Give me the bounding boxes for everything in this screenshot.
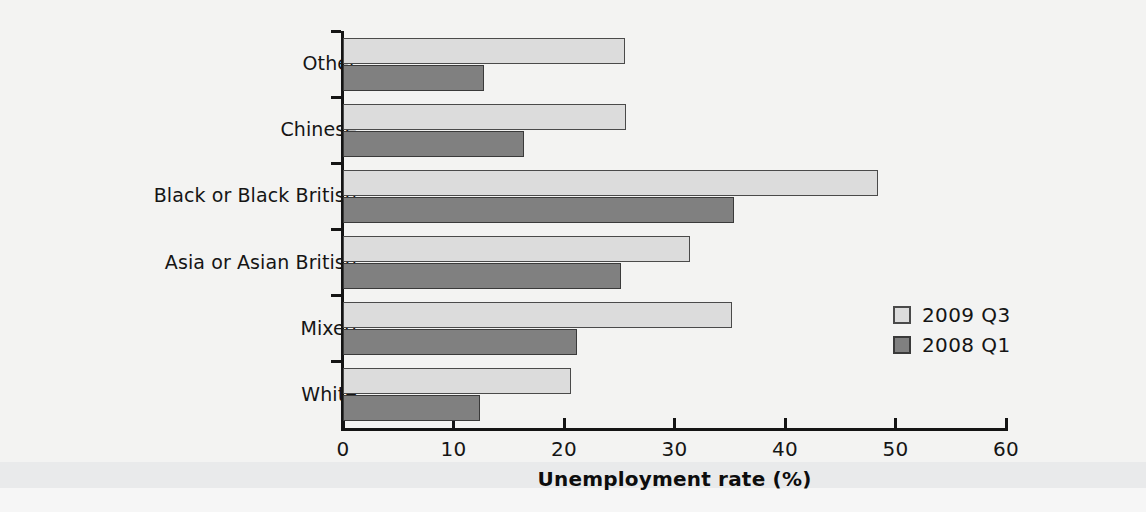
legend-item-2009q3: 2009 Q3 bbox=[893, 300, 1011, 330]
y-axis-tick bbox=[331, 228, 341, 231]
x-axis-title: Unemployment rate (%) bbox=[341, 467, 1008, 491]
bar-2008-q1 bbox=[343, 65, 484, 91]
x-axis-tick-label: 60 bbox=[976, 437, 1036, 461]
y-axis-tick bbox=[331, 294, 341, 297]
bar-2009-q3 bbox=[343, 302, 732, 328]
x-axis-tick-label: 30 bbox=[645, 437, 705, 461]
y-axis-top-cap bbox=[331, 30, 341, 33]
bar-2009-q3 bbox=[343, 170, 878, 196]
x-axis-tick bbox=[673, 418, 676, 428]
x-axis-line bbox=[341, 428, 1008, 431]
bar-2008-q1 bbox=[343, 263, 621, 289]
x-axis-tick-label: 40 bbox=[755, 437, 815, 461]
bar-2009-q3 bbox=[343, 368, 571, 394]
x-axis-tick-label: 0 bbox=[313, 437, 373, 461]
y-axis-category-label: Asia or Asian British bbox=[165, 251, 357, 273]
bar-chart-plot-area: 0102030405060WhiteMixedAsia or Asian Bri… bbox=[0, 0, 1146, 512]
bar-2008-q1 bbox=[343, 395, 480, 421]
legend-item-2008q1: 2008 Q1 bbox=[893, 330, 1011, 360]
legend-label-2008q1: 2008 Q1 bbox=[922, 333, 1011, 357]
legend-label-2009q3: 2009 Q3 bbox=[922, 303, 1011, 327]
x-axis-tick-label: 50 bbox=[866, 437, 926, 461]
bar-2008-q1 bbox=[343, 131, 524, 157]
y-axis-tick bbox=[331, 162, 341, 165]
bar-2008-q1 bbox=[343, 329, 577, 355]
y-axis-category-label: Black or Black British bbox=[154, 184, 357, 206]
x-axis-tick bbox=[894, 418, 897, 428]
chart-legend: 2009 Q3 2008 Q1 bbox=[893, 300, 1011, 360]
bar-2009-q3 bbox=[343, 104, 626, 130]
x-axis-tick bbox=[784, 418, 787, 428]
x-axis-tick bbox=[563, 418, 566, 428]
bar-2008-q1 bbox=[343, 197, 734, 223]
bar-2009-q3 bbox=[343, 38, 625, 64]
y-axis-tick bbox=[331, 360, 341, 363]
x-axis-end-cap bbox=[1005, 418, 1008, 430]
x-axis-tick-label: 20 bbox=[534, 437, 594, 461]
x-axis-tick-label: 10 bbox=[424, 437, 484, 461]
y-axis-tick bbox=[331, 96, 341, 99]
legend-swatch-2008q1-icon bbox=[893, 336, 911, 354]
bar-2009-q3 bbox=[343, 236, 690, 262]
chart-figure: 0102030405060WhiteMixedAsia or Asian Bri… bbox=[0, 0, 1146, 512]
legend-swatch-2009q3-icon bbox=[893, 306, 911, 324]
